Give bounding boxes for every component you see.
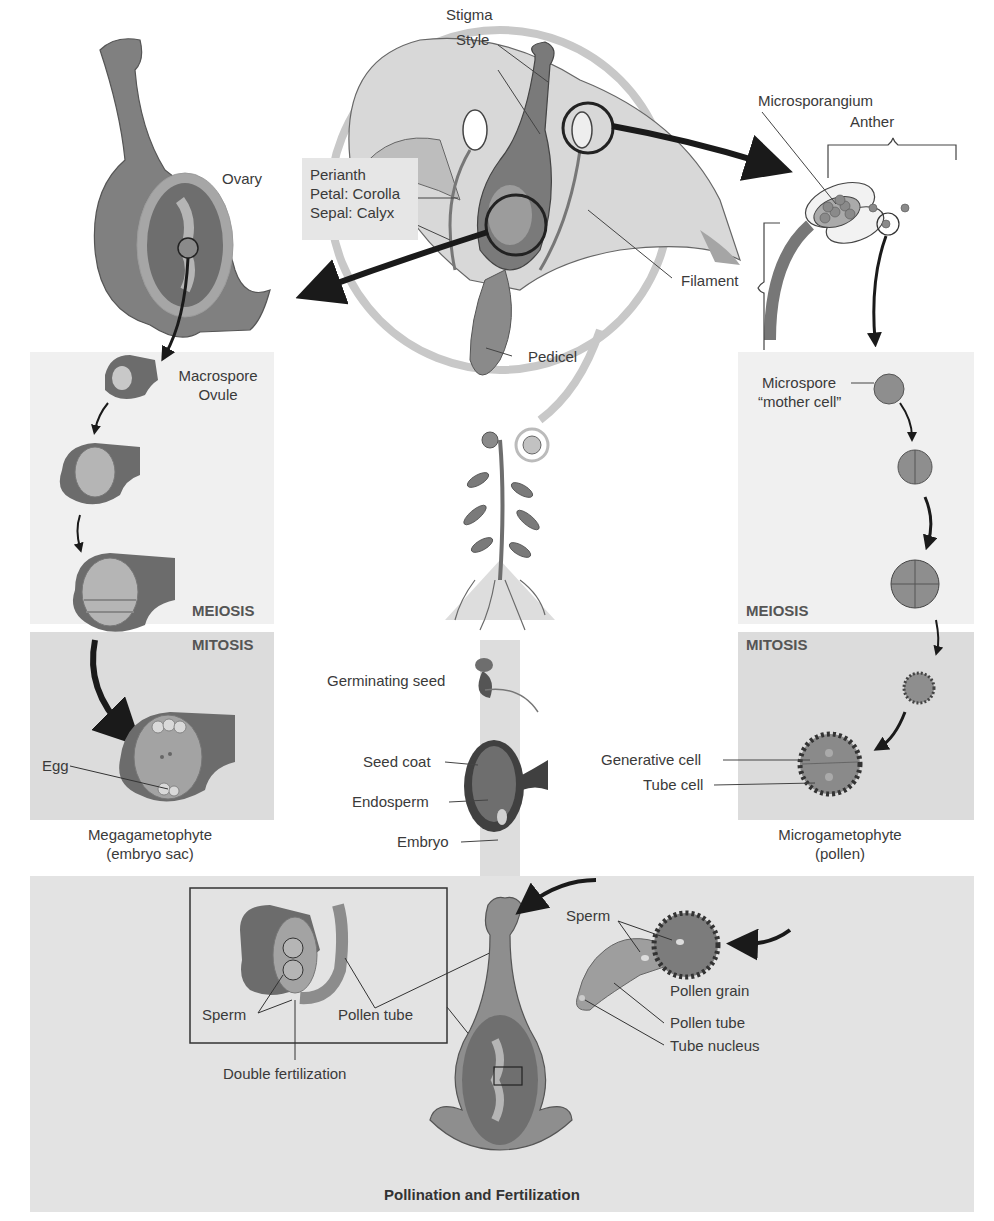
- label-microgametophyte: Microgametophyte: [760, 826, 920, 844]
- label-megagametophyte: Megagametophyte: [60, 826, 240, 844]
- label-petal-corolla: Petal: Corolla: [310, 185, 400, 203]
- ovule-stage-1: [105, 355, 158, 399]
- microspore-tetrad: [891, 560, 939, 608]
- label-germinating-seed: Germinating seed: [327, 672, 445, 690]
- ovule-stage-3: [73, 553, 175, 632]
- label-female-meiosis: MEIOSIS: [192, 602, 255, 620]
- label-male-meiosis: MEIOSIS: [746, 602, 809, 620]
- label-macrospore: Macrospore: [168, 367, 268, 385]
- label-style: Style: [456, 31, 489, 49]
- label-microsporangium: Microsporangium: [758, 92, 873, 110]
- label-ovary: Ovary: [222, 170, 262, 188]
- label-anther: Anther: [850, 113, 894, 131]
- pollination-title: Pollination and Fertilization: [384, 1186, 580, 1204]
- label-pollen-grain: Pollen grain: [670, 982, 749, 1000]
- label-stigma: Stigma: [446, 6, 493, 24]
- microspore-stages: [714, 374, 939, 794]
- label-embryo-sac: (embryo sac): [60, 845, 240, 863]
- label-mother-cell: “mother cell”: [758, 393, 841, 411]
- label-female-mitosis: MITOSIS: [192, 636, 253, 654]
- label-grain-sperm: Sperm: [566, 907, 610, 925]
- label-seed-coat: Seed coat: [363, 753, 431, 771]
- label-male-mitosis: MITOSIS: [746, 636, 807, 654]
- pollinated-pistil: [430, 897, 572, 1150]
- megagametophyte-drawing: [70, 712, 235, 801]
- label-sepal-calyx: Sepal: Calyx: [310, 204, 394, 222]
- mature-pollen: [714, 734, 860, 794]
- label-pollen-tube: Pollen tube: [670, 1014, 745, 1032]
- ovule-stage-2: [60, 443, 140, 504]
- anther-detail: [758, 112, 956, 350]
- label-egg: Egg: [42, 757, 69, 775]
- label-double-fertilization: Double fertilization: [223, 1065, 346, 1083]
- label-filament: Filament: [681, 272, 739, 290]
- label-pedicel: Pedicel: [528, 348, 577, 366]
- ovule-stages: [60, 355, 235, 801]
- label-inset-pollen-tube: Pollen tube: [338, 1006, 413, 1024]
- label-tube-cell: Tube cell: [643, 776, 703, 794]
- label-embryo: Embryo: [397, 833, 449, 851]
- life-cycle-artwork: [0, 0, 994, 1221]
- microspore-mother-cell: [874, 374, 904, 404]
- seed-drawing: [445, 740, 548, 842]
- label-tube-nucleus: Tube nucleus: [670, 1037, 760, 1055]
- label-generative-cell: Generative cell: [601, 751, 701, 769]
- microspore-dyad: [898, 450, 932, 484]
- label-inset-sperm: Sperm: [202, 1006, 246, 1024]
- label-microspore: Microspore: [762, 374, 836, 392]
- young-pollen: [904, 673, 934, 703]
- perianth-box: Perianth Petal: Corolla Sepal: Calyx: [302, 158, 418, 240]
- label-ovule: Ovule: [168, 386, 268, 404]
- label-endosperm: Endosperm: [352, 793, 429, 811]
- label-pollen: (pollen): [760, 845, 920, 863]
- label-perianth: Perianth: [310, 166, 366, 184]
- ovary-drawing: [94, 39, 270, 355]
- inset-ovule: [240, 905, 342, 998]
